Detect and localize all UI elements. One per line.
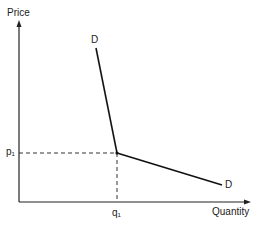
demand-steep-segment bbox=[96, 48, 117, 153]
y-axis-arrow-icon bbox=[17, 20, 22, 27]
p1-label: p₁ bbox=[6, 147, 15, 157]
q1-label: q₁ bbox=[112, 208, 121, 218]
x-axis-label: Quantity bbox=[212, 207, 249, 217]
curve-label-top: D bbox=[91, 35, 98, 45]
curve-label-end: D bbox=[225, 180, 232, 190]
diagram-canvas bbox=[0, 0, 253, 225]
y-axis-label: Price bbox=[7, 8, 30, 18]
kink-point bbox=[115, 151, 118, 154]
kinked-demand-diagram: Price D D p₁ q₁ Quantity bbox=[0, 0, 253, 225]
demand-flat-segment bbox=[117, 153, 222, 185]
x-axis-arrow-icon bbox=[244, 200, 251, 205]
